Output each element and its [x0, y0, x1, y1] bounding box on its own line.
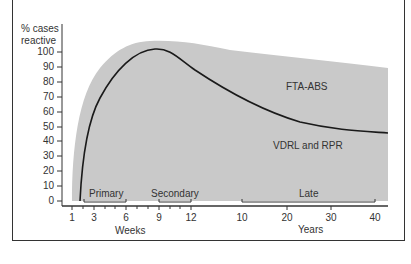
y-tick-80: 80	[24, 77, 54, 87]
y-tick-70: 70	[24, 92, 54, 102]
y-tick-30: 30	[24, 151, 54, 161]
y-axis-label-line1: % cases	[21, 24, 59, 34]
x-tick-year-30: 30	[321, 213, 341, 223]
x-tick-week-12: 12	[181, 213, 201, 223]
x-tick-week-3: 3	[84, 213, 104, 223]
series-label-vdrl-rpr: VDRL and RPR	[273, 141, 343, 151]
y-tick-0: 0	[24, 196, 54, 206]
y-tick-40: 40	[24, 136, 54, 146]
y-tick-100: 100	[24, 47, 54, 57]
y-tick-90: 90	[24, 62, 54, 72]
x-axis-label-weeks: Weeks	[115, 226, 145, 236]
phase-label-late: Late	[299, 189, 318, 199]
chart-plot	[0, 0, 411, 264]
y-tick-60: 60	[24, 107, 54, 117]
y-tick-10: 10	[24, 181, 54, 191]
fta-abs-area	[72, 41, 388, 201]
x-tick-year-20: 20	[277, 213, 297, 223]
x-tick-week-9: 9	[149, 213, 169, 223]
y-tick-50: 50	[24, 122, 54, 132]
y-axis-label-line2: reactive	[21, 36, 56, 46]
x-tick-week-1: 1	[62, 213, 82, 223]
phase-label-secondary: Secondary	[151, 189, 199, 199]
x-tick-week-6: 6	[116, 213, 136, 223]
series-label-fta-abs: FTA-ABS	[286, 82, 327, 92]
phase-label-primary: Primary	[89, 189, 123, 199]
x-axis-label-years: Years	[298, 225, 323, 235]
x-tick-year-40: 40	[365, 213, 385, 223]
y-tick-20: 20	[24, 166, 54, 176]
x-tick-year-10: 10	[232, 213, 252, 223]
